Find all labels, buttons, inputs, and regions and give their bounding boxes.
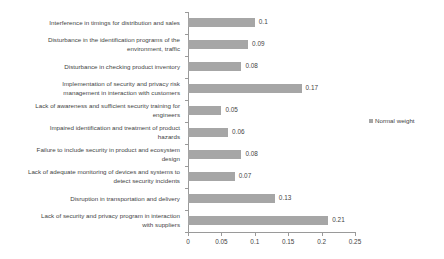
x-axis-tick — [221, 233, 222, 236]
bar-row: 0.09 — [188, 34, 355, 56]
y-axis-tick — [185, 122, 188, 123]
category-label-row: Disturbance in the identification progra… — [0, 34, 184, 56]
bar-chart: Interference in timings for distribution… — [0, 0, 444, 259]
category-axis-labels: Interference in timings for distribution… — [0, 12, 184, 232]
y-axis-tick — [185, 56, 188, 57]
y-axis-tick — [185, 34, 188, 35]
y-axis-tick — [185, 210, 188, 211]
bar-value-label: 0.08 — [241, 148, 257, 160]
y-axis-tick — [185, 12, 188, 13]
category-label: Lack of security and privacy program in … — [41, 212, 184, 229]
x-axis-tick — [255, 233, 256, 236]
chart-legend: Normal weight — [369, 117, 415, 125]
category-label: Failure to include security in product a… — [37, 146, 184, 163]
bar-value-label: 0.05 — [221, 104, 237, 116]
x-axis-tick-label: 0.15 — [282, 237, 294, 246]
y-axis-tick — [185, 166, 188, 167]
bar-row: 0.05 — [188, 100, 355, 122]
bar — [188, 150, 241, 159]
category-label: Impaired identification and treatment of… — [50, 124, 184, 141]
y-axis-tick — [185, 100, 188, 101]
y-axis-tick — [185, 144, 188, 145]
category-label-row: Disruption in transportation and deliver… — [0, 188, 184, 210]
category-label-row: Impaired identification and treatment of… — [0, 122, 184, 144]
x-axis-tick — [355, 233, 356, 236]
bar-row: 0.13 — [188, 188, 355, 210]
category-label-row: Failure to include security in product a… — [0, 144, 184, 166]
category-label-row: Disturbance in checking product inventor… — [0, 56, 184, 78]
bar-value-label: 0.08 — [241, 60, 257, 72]
bar-value-label: 0.13 — [275, 192, 291, 204]
bar — [188, 128, 228, 137]
plot-area: 0.10.090.080.170.050.060.080.070.130.21 — [188, 12, 355, 232]
x-axis-tick-label: 0.2 — [317, 237, 326, 246]
bar-row: 0.07 — [188, 166, 355, 188]
x-axis-line — [188, 232, 356, 233]
bar-row: 0.17 — [188, 78, 355, 100]
category-label-row: Lack of adequate monitoring of devices a… — [0, 166, 184, 188]
category-label: Interference in timings for distribution… — [49, 19, 184, 28]
x-axis-tick — [188, 233, 189, 236]
category-label-row: Lack of awareness and sufficient securit… — [0, 100, 184, 122]
bar-row: 0.1 — [188, 12, 355, 34]
bar-row: 0.06 — [188, 122, 355, 144]
bar-row: 0.08 — [188, 144, 355, 166]
x-axis-tick — [322, 233, 323, 236]
bar — [188, 40, 248, 49]
legend-swatch-icon — [369, 119, 373, 123]
category-label: Disturbance in checking product inventor… — [64, 63, 184, 72]
bar-value-label: 0.09 — [248, 38, 264, 50]
y-axis-tick — [185, 78, 188, 79]
bar-value-label: 0.21 — [328, 214, 344, 226]
bar-value-label: 0.17 — [302, 82, 318, 94]
category-label: Implementation of security and privacy r… — [62, 80, 184, 97]
x-axis-tick-label: 0.05 — [215, 237, 227, 246]
bar — [188, 106, 221, 115]
category-label-row: Implementation of security and privacy r… — [0, 78, 184, 100]
category-label: Disruption in transportation and deliver… — [70, 195, 184, 204]
category-label: Disturbance in the identification progra… — [48, 36, 184, 53]
bar — [188, 62, 241, 71]
category-label: Lack of adequate monitoring of devices a… — [28, 168, 184, 185]
bar-row: 0.08 — [188, 56, 355, 78]
bar — [188, 172, 235, 181]
category-label-row: Lack of security and privacy program in … — [0, 210, 184, 232]
x-axis-tick-label: 0.1 — [250, 237, 259, 246]
bar — [188, 18, 255, 27]
legend-label: Normal weight — [375, 117, 415, 125]
x-axis-tick-label: 0 — [186, 237, 190, 246]
bar — [188, 216, 328, 225]
category-label: Lack of awareness and sufficient securit… — [35, 102, 184, 119]
y-axis-tick — [185, 188, 188, 189]
bar-value-label: 0.07 — [235, 170, 251, 182]
category-label-row: Interference in timings for distribution… — [0, 12, 184, 34]
bar-value-label: 0.06 — [228, 126, 244, 138]
bar-row: 0.21 — [188, 210, 355, 232]
bar — [188, 84, 302, 93]
x-axis-tick — [288, 233, 289, 236]
bar-value-label: 0.1 — [255, 16, 268, 28]
x-axis-tick-label: 0.25 — [349, 237, 361, 246]
bar — [188, 194, 275, 203]
